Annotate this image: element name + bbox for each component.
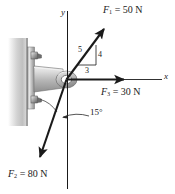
slope-label-hypotenuse: 5 [78, 46, 82, 54]
force-vector-F2 [40, 80, 67, 158]
force-label-F1: F1 = 50 N [103, 5, 143, 16]
x-axis-label: x [164, 72, 168, 81]
slope-label-vertical: 4 [98, 51, 102, 59]
diagram-canvas [0, 0, 175, 194]
angle-label-15deg: 15° [90, 108, 103, 117]
force-value-F3: = 30 N [113, 86, 141, 97]
force-subscript-F1: 1 [109, 8, 112, 15]
force-value-F2: = 80 N [20, 168, 48, 179]
y-axis-label: y [61, 8, 65, 17]
bolt-lower [31, 96, 42, 103]
bolt-leader-line [41, 100, 58, 113]
force-subscript-F2: 2 [14, 172, 17, 179]
force-value-F1: = 50 N [115, 4, 143, 15]
angle-arc-15 [62, 114, 89, 118]
slope-label-horizontal: 3 [85, 67, 89, 75]
wall-support [8, 38, 28, 126]
force-label-F2: F2 = 80 N [8, 169, 48, 180]
bolt-upper [31, 52, 42, 59]
force-label-F3: F3 = 30 N [101, 87, 141, 98]
mechanics-force-diagram: y x F1 = 50 N F3 = 30 N F2 = 80 N 5 4 3 … [0, 0, 175, 194]
force-subscript-F3: 3 [107, 90, 110, 97]
